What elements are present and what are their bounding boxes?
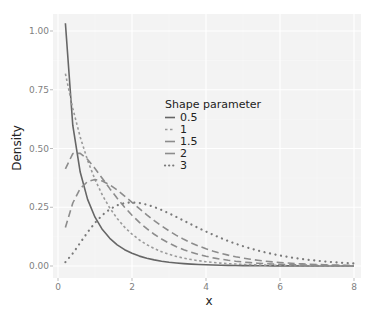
- y-tick-label: 0.25: [29, 202, 49, 212]
- y-tick-label: 0.75: [29, 85, 49, 95]
- plot-panel: [53, 14, 361, 278]
- panel-background: [53, 14, 361, 278]
- y-tick-label: 0.50: [29, 144, 49, 154]
- y-axis-title: Density: [10, 125, 24, 171]
- y-axis: 0.000.250.500.751.00: [29, 26, 53, 271]
- x-tick-label: 0: [55, 282, 61, 292]
- y-tick-label: 1.00: [29, 26, 49, 36]
- x-axis: 02468: [55, 278, 357, 292]
- legend-title: Shape parameter: [165, 98, 261, 111]
- x-tick-label: 6: [277, 282, 283, 292]
- legend-label: 3: [180, 159, 187, 172]
- x-tick-label: 8: [351, 282, 357, 292]
- x-tick-label: 4: [203, 282, 209, 292]
- x-tick-label: 2: [129, 282, 135, 292]
- x-axis-title: x: [205, 294, 212, 308]
- y-tick-label: 0.00: [29, 261, 49, 271]
- density-chart: 02468 0.000.250.500.751.00 x Density Sha…: [0, 0, 381, 316]
